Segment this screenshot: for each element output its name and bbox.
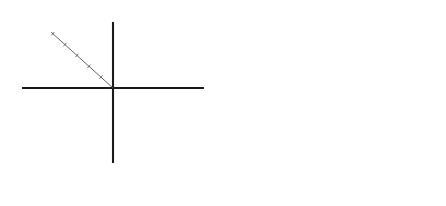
radar-chart-figure bbox=[0, 0, 446, 206]
radar-plot-b bbox=[223, 0, 446, 206]
radar-panel-b bbox=[223, 0, 446, 206]
radar-panel-a bbox=[0, 0, 223, 206]
radar-plot-a bbox=[0, 0, 223, 206]
axis-line-clan bbox=[51, 32, 113, 88]
